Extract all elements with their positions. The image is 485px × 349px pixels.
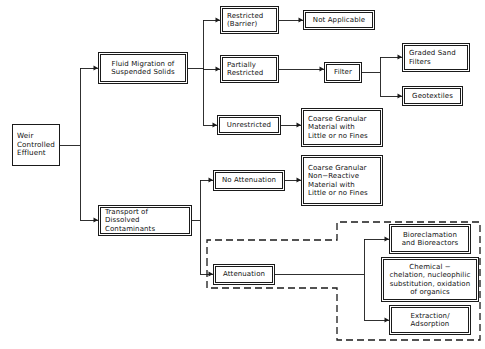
node-coarse-granular-non-reactive-material[interactable]: Coarse Granular Non−Reactive Material wi… — [303, 157, 381, 204]
node-bioreclamation-and-bioreactors[interactable]: Bioreclamation and Bioreactors — [391, 226, 469, 252]
node-weir-controlled-effluent[interactable]: Weir Controlled Effluent — [12, 124, 60, 166]
node-label: Partially Restricted — [227, 61, 263, 78]
node-chemical-treatment[interactable]: Chemical − chelation, nucleophilic subst… — [383, 259, 477, 300]
node-label: Coarse Granular Material with Little or … — [308, 115, 368, 140]
node-coarse-granular-material-with-little-or-no-fines[interactable]: Coarse Granular Material with Little or … — [303, 110, 381, 145]
node-label: Geotextiles — [412, 92, 453, 100]
node-label: Chemical − chelation, nucleophilic subst… — [390, 263, 471, 296]
node-label: Restricted (Barrier) — [227, 12, 263, 29]
node-not-applicable[interactable]: Not Applicable — [305, 12, 373, 28]
node-geotextiles[interactable]: Geotextiles — [404, 88, 461, 104]
node-extraction-adsorption[interactable]: Extraction/ Adsorption — [391, 307, 469, 333]
node-label: Filter — [334, 68, 352, 76]
node-label: No Attenuation — [222, 176, 276, 184]
node-label: Transport of Dissolved Contaminants — [105, 208, 187, 233]
node-attenuation[interactable]: Attenuation — [215, 266, 273, 283]
node-label: Attenuation — [223, 270, 265, 278]
node-label: Unrestricted — [227, 121, 271, 129]
node-transport-of-dissolved-contaminants[interactable]: Transport of Dissolved Contaminants — [100, 207, 190, 234]
node-fluid-migration-of-suspended-solids[interactable]: Fluid Migration of Suspended Solids — [100, 54, 186, 82]
node-graded-sand-filters[interactable]: Graded Sand Filters — [404, 45, 468, 70]
node-label: Fluid Migration of Suspended Solids — [111, 60, 174, 77]
node-label: Coarse Granular Non−Reactive Material wi… — [308, 164, 368, 197]
flowchart-canvas: Weir Controlled Effluent Fluid Migration… — [0, 0, 485, 349]
node-restricted-barrier[interactable]: Restricted (Barrier) — [222, 8, 277, 32]
node-label: Weir Controlled Effluent — [17, 132, 55, 157]
node-label: Extraction/ Adsorption — [410, 312, 449, 329]
node-partially-restricted[interactable]: Partially Restricted — [222, 57, 277, 81]
node-label: Graded Sand Filters — [409, 49, 456, 66]
node-filter[interactable]: Filter — [326, 64, 360, 81]
node-label: Bioreclamation and Bioreactors — [402, 231, 459, 248]
node-no-attenuation[interactable]: No Attenuation — [215, 172, 283, 189]
node-unrestricted[interactable]: Unrestricted — [219, 117, 279, 133]
node-label: Not Applicable — [313, 16, 365, 24]
